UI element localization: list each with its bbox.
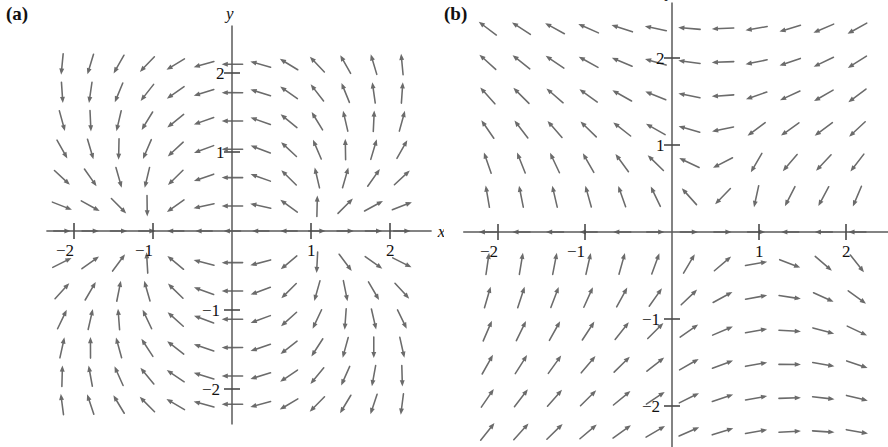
- field-arrow: [848, 56, 867, 68]
- arrow-head: [222, 90, 228, 95]
- arrow-head: [551, 186, 556, 193]
- x-tick-label: 2: [386, 241, 395, 260]
- field-arrow: [551, 186, 557, 207]
- field-arrow: [144, 281, 150, 301]
- field-arrow: [341, 366, 350, 385]
- field-arrow: [311, 339, 322, 357]
- field-arrow: [751, 153, 762, 172]
- arrow-head: [222, 175, 228, 180]
- field-arrow: [712, 360, 733, 368]
- arrow-head: [761, 294, 768, 299]
- arrow-head: [612, 25, 619, 30]
- arrow-head: [341, 83, 346, 90]
- arrow-head: [376, 201, 383, 206]
- field-arrow: [514, 389, 527, 406]
- field-arrow: [614, 357, 630, 372]
- arrow-head: [194, 372, 201, 377]
- field-arrow: [779, 329, 801, 334]
- field-arrow: [746, 361, 768, 366]
- field-arrow: [712, 94, 734, 99]
- arrow-head: [194, 177, 201, 182]
- field-arrow: [846, 395, 867, 401]
- arrow-head: [342, 351, 347, 358]
- arrow-head: [341, 379, 346, 386]
- field-arrow: [580, 122, 596, 137]
- arrow-head: [250, 375, 257, 380]
- field-arrow: [748, 123, 766, 136]
- arrow-head: [222, 317, 228, 322]
- field-arrow: [780, 260, 801, 268]
- arrow-head: [853, 200, 858, 207]
- field-arrow: [281, 142, 296, 156]
- x-tick-label: 1: [307, 241, 316, 260]
- arrow-head: [314, 167, 319, 174]
- field-arrow: [310, 57, 324, 72]
- field-arrow: [678, 26, 700, 31]
- arrow-head: [65, 205, 72, 210]
- field-arrow: [371, 309, 377, 329]
- field-arrow: [365, 201, 383, 211]
- arrow-head: [118, 181, 123, 188]
- arrow-head: [488, 355, 493, 362]
- arrow-head: [60, 97, 65, 103]
- field-arrow: [581, 356, 595, 373]
- field-arrow: [612, 25, 633, 32]
- field-arrow: [712, 394, 733, 401]
- arrow-head: [343, 139, 348, 145]
- arrow-head: [344, 168, 349, 175]
- x-tick-label: 2: [842, 242, 851, 261]
- arrow-head: [115, 337, 120, 344]
- arrow-head: [746, 61, 753, 66]
- field-arrow: [546, 56, 564, 68]
- arrow-head: [222, 260, 228, 265]
- field-arrow: [517, 153, 525, 173]
- arrow-head: [280, 59, 287, 64]
- arrow-head: [522, 355, 527, 362]
- field-arrow: [519, 253, 524, 275]
- field-arrow: [251, 145, 271, 153]
- arrow-head: [167, 370, 174, 375]
- field-arrow: [167, 200, 184, 212]
- arrow-head: [144, 181, 149, 188]
- field-arrow: [370, 54, 377, 74]
- field-arrow: [846, 430, 868, 435]
- field-arrow: [518, 287, 525, 308]
- arrow-head: [340, 55, 345, 62]
- field-arrow: [87, 394, 94, 414]
- field-arrow: [513, 88, 529, 104]
- field-arrow: [251, 174, 271, 181]
- field-arrow: [399, 394, 404, 415]
- arrow-head: [399, 54, 404, 60]
- field-arrow: [612, 90, 631, 101]
- arrow-head: [89, 153, 94, 160]
- arrow-head: [250, 89, 257, 94]
- arrow-head: [554, 287, 559, 294]
- field-arrow: [586, 253, 592, 274]
- field-arrow: [343, 281, 348, 302]
- field-arrow: [853, 186, 862, 206]
- field-arrow: [746, 294, 768, 299]
- field-arrow: [783, 154, 797, 171]
- field-arrow: [551, 287, 559, 308]
- field-arrow: [848, 89, 866, 102]
- field-arrow: [194, 372, 214, 379]
- arrow-head: [761, 361, 768, 366]
- arrow-head: [761, 395, 768, 400]
- field-arrow: [680, 325, 698, 338]
- field-arrow: [678, 59, 700, 64]
- field-arrow: [280, 200, 297, 212]
- x-tick-label: −1: [567, 242, 585, 261]
- field-arrow: [850, 154, 863, 171]
- field-arrow: [314, 167, 320, 187]
- arrow-head: [88, 125, 93, 131]
- field-arrow: [343, 139, 348, 160]
- arrow-head: [678, 92, 685, 97]
- arrow-head: [143, 152, 148, 159]
- field-arrow: [779, 395, 801, 400]
- field-arrow: [753, 186, 759, 207]
- field-arrow: [581, 390, 597, 405]
- field-arrow: [613, 425, 631, 438]
- field-arrow: [645, 92, 665, 100]
- field-arrow: [679, 393, 699, 403]
- arrow-head: [727, 394, 734, 399]
